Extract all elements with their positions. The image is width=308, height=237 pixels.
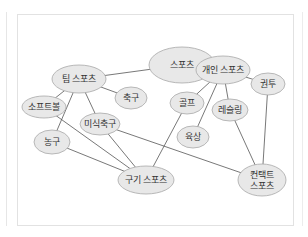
- node-contact: 컨택트스포츠: [238, 164, 286, 196]
- node-label: 개인 스포츠: [202, 65, 245, 75]
- node-soccer: 축구: [115, 87, 147, 109]
- node-label: 구기 스포츠: [125, 175, 168, 185]
- node-label: 권투: [260, 78, 276, 89]
- node-label: 농구: [44, 137, 60, 147]
- node-label: 미식축구: [84, 119, 116, 129]
- node-label: 컨택트: [250, 170, 274, 180]
- node-label: 스포츠: [250, 181, 274, 191]
- node-softball: 소프트볼: [22, 96, 66, 118]
- node-label: 팀 스포츠: [62, 73, 97, 84]
- node-individual: 개인 스포츠: [196, 56, 250, 84]
- node-label: 소프트볼: [28, 102, 60, 112]
- node-golf: 골프: [170, 92, 204, 114]
- node-label: 축구: [123, 93, 139, 103]
- node-label: 육상: [185, 132, 201, 142]
- nodes: 스포츠팀 스포츠개인 스포츠소프트볼축구골프권투레슬링미식축구농구육상구기 스포…: [22, 47, 286, 196]
- node-basketball: 농구: [34, 130, 70, 154]
- node-athletics: 육상: [177, 126, 209, 148]
- node-ball-sports: 구기 스포츠: [118, 166, 174, 194]
- node-wrestling: 레슬링: [212, 99, 248, 121]
- node-american-football: 미식축구: [80, 113, 120, 135]
- sports-concept-diagram: 스포츠팀 스포츠개인 스포츠소프트볼축구골프권투레슬링미식축구농구육상구기 스포…: [0, 0, 308, 237]
- node-team: 팀 스포츠: [52, 65, 106, 93]
- node-label: 스포츠: [170, 60, 194, 70]
- node-boxing: 권투: [251, 73, 285, 95]
- node-label: 골프: [179, 98, 195, 108]
- node-label: 레슬링: [218, 104, 242, 115]
